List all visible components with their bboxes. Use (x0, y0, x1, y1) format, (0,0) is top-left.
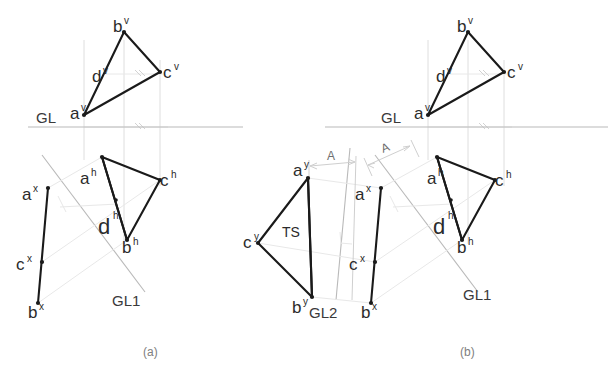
vertex-dot-b-v (122, 30, 126, 34)
label-a-h: a (80, 169, 90, 188)
aux-projector-b-d (393, 204, 452, 207)
label-d-h-sup: h (113, 210, 119, 221)
vertex-dot-b-a-v (426, 113, 430, 117)
label-b-c-x-sup: x (360, 253, 365, 264)
label-b-a-v: a (414, 104, 424, 123)
drawing-canvas: GL GL1 (0, 0, 608, 385)
vertex-dot-a-v (82, 113, 86, 117)
label-b-b-x: b (361, 303, 370, 322)
aux-projector-d (60, 204, 118, 207)
dimension-label-a-right: A (379, 140, 392, 156)
label-b-x: b (28, 303, 37, 322)
aux-reference-label-gl1-a: GL1 (112, 292, 140, 309)
label-d-h: d (98, 214, 110, 239)
label-c-y-sup: y (254, 231, 259, 242)
ground-line-label-b: GL (381, 109, 401, 126)
label-b-v-sup: v (124, 15, 129, 26)
vertex-dot-b-b-v (466, 30, 470, 34)
label-b-a-h: a (427, 169, 437, 188)
horizontal-triangle-b (437, 157, 495, 240)
label-b-y: b (292, 298, 301, 317)
label-b-a-x: a (355, 185, 365, 204)
vertex-dot-a-x (46, 186, 50, 190)
label-b-c-x: c (349, 255, 358, 274)
label-c-h: c (160, 171, 169, 190)
label-b-y-sup: y (303, 296, 308, 307)
panel-b-parallel-ticks (479, 70, 489, 129)
vertex-dot-c-x (40, 260, 44, 264)
dimension-a-left: A (309, 149, 356, 300)
label-b-c-v-sup: v (518, 61, 523, 72)
panel-b-point-labels: a v b v c v d v a h b h c h d h a x c x (243, 15, 523, 322)
label-c-x-sup: x (27, 253, 32, 264)
label-a-y-sup: y (304, 159, 309, 170)
aux-reference-line-gl2 (336, 148, 350, 300)
label-b-d-v: d (436, 67, 445, 86)
label-b-c-h-sup: h (506, 169, 512, 180)
dimension-label-a-left: A (327, 149, 335, 163)
aux-reference-label-gl2: GL2 (309, 304, 337, 321)
label-a-x: a (22, 185, 32, 204)
label-b-c-v: c (507, 63, 516, 82)
label-a-y: a (293, 161, 303, 180)
label-b-h: b (122, 238, 131, 257)
label-b-b-v-sup: v (468, 15, 473, 26)
label-b-b-v: b (457, 17, 466, 36)
label-c-v: c (163, 63, 172, 82)
label-b-b-h-sup: h (468, 236, 474, 247)
label-c-h-sup: h (171, 169, 177, 180)
ts-rightangle-2 (340, 232, 341, 244)
panel-a: GL GL1 (16, 15, 243, 359)
panel-b-true-shape-view: TS (256, 176, 314, 299)
vertex-dot-b-d-h (449, 198, 453, 202)
true-shape-label: TS (282, 224, 300, 240)
label-b-c-h: c (495, 171, 504, 190)
vertex-dot-b-a-h (435, 155, 439, 159)
dimension-a-right-ext-1 (364, 158, 372, 176)
vertex-dot-a-h (100, 155, 104, 159)
panel-a-auxiliary-view (36, 186, 50, 305)
label-b-v: b (113, 17, 122, 36)
panel-a-parallel-ticks (135, 70, 145, 129)
aux-projector-b-b (371, 240, 462, 303)
vertex-dot-d-h (114, 198, 118, 202)
label-a-h-sup: h (91, 167, 97, 178)
label-a-v: a (70, 104, 80, 123)
label-a-v-sup: v (81, 102, 86, 113)
vertex-dot-b-y (310, 295, 314, 299)
label-c-x: c (16, 255, 25, 274)
vertex-dot-b-c-x (373, 260, 377, 264)
vertex-dot-a-y (306, 176, 310, 180)
label-b-d-v-sup: v (447, 65, 452, 76)
panel-b: GL GL1 GL2 (243, 15, 608, 359)
dimension-a-right-ext-2 (411, 140, 419, 157)
panel-b-auxiliary-view (369, 186, 383, 305)
dimension-a-right: A (364, 140, 419, 176)
label-c-y: c (243, 233, 252, 252)
label-b-a-x-sup: x (366, 183, 371, 194)
caption-b: (b) (460, 345, 475, 359)
label-b-b-h: b (457, 238, 466, 257)
vertex-dot-b-c-v (502, 70, 506, 74)
label-b-x-sup: x (39, 301, 44, 312)
aux-edge-line-a (38, 188, 48, 303)
label-c-v-sup: v (174, 61, 179, 72)
label-d-v: d (92, 67, 101, 86)
aux-rightangle-mark-b (390, 196, 398, 212)
caption-a: (a) (143, 345, 158, 359)
aux-edge-line-b (371, 188, 381, 303)
ts-rightangle-1 (340, 243, 352, 244)
label-d-v-sup: v (103, 65, 108, 76)
label-b-d-h-sup: h (448, 210, 454, 221)
dimension-a-right-arrow-start (368, 163, 375, 168)
label-b-a-v-sup: v (425, 102, 430, 113)
technical-drawing-root: GL GL1 (0, 0, 608, 385)
label-b-b-x-sup: x (372, 301, 377, 312)
true-shape-edge-ab (308, 178, 312, 297)
label-b-h-sup: h (133, 236, 139, 247)
aux-rightangle-mark (58, 196, 66, 212)
aux-reference-label-gl1-b: GL1 (463, 286, 491, 303)
horizontal-triangle-a (102, 157, 160, 240)
label-a-x-sup: x (33, 183, 38, 194)
label-b-a-h-sup: h (438, 167, 444, 178)
